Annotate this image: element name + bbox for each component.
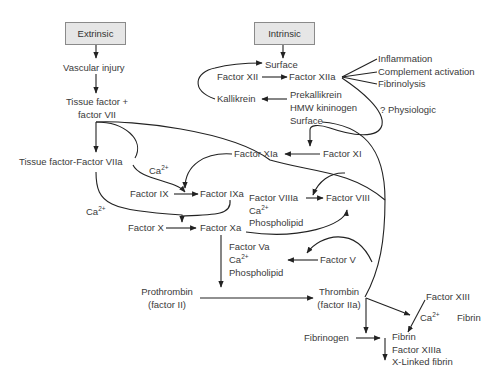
fibrinolysis-label: Fibrinolysis <box>378 78 426 90</box>
prekallikrein-label: Prekallikrein <box>290 89 342 101</box>
calcium-label-5: Ca2+ <box>420 312 440 324</box>
factor-viiia-label: Factor VIIIa <box>249 192 298 204</box>
intrinsic-pathway-box: Intrinsic <box>254 22 315 45</box>
phospholipid-label-2: Phospholipid <box>229 267 283 279</box>
fibrin-side-label: Fibrin <box>457 312 481 324</box>
inflammation-label: Inflammation <box>378 53 432 65</box>
calcium-label-1: Ca2+ <box>149 165 169 177</box>
factor-ixa-label: Factor IXa <box>200 188 244 200</box>
physiologic-label: ? Physiologic <box>380 104 436 116</box>
x-linked-fibrin-label: X-Linked fibrin <box>392 356 453 368</box>
factor-v-label: Factor V <box>320 254 356 266</box>
extrinsic-pathway-box: Extrinsic <box>65 22 126 45</box>
complement-activation-label: Complement activation <box>378 66 475 78</box>
factor-viii-label: Factor VIII <box>326 192 370 204</box>
prothrombin-label: Prothrombin <box>132 286 202 298</box>
factor-x-label: Factor X <box>128 222 164 234</box>
factor-ix-label: Factor IX <box>130 188 169 200</box>
surface-bottom-label: Surface <box>290 115 323 127</box>
tissue-factor-viia-label: Tissue factor-Factor VIIa <box>19 156 123 168</box>
factor-xiiia-label: Factor XIIIa <box>392 344 441 356</box>
surface-top-label: Surface <box>265 59 298 71</box>
factor-vii-label: factor VII <box>62 109 132 121</box>
calcium-label-2: Ca2+ <box>249 205 269 217</box>
intrinsic-label: Intrinsic <box>268 28 301 39</box>
factor-xiii-label: Factor XIII <box>426 291 470 303</box>
factor-ii-label: (factor II) <box>132 299 202 311</box>
factor-iia-label: (factor IIa) <box>304 299 374 311</box>
calcium-label-3: Ca2+ <box>86 206 106 218</box>
factor-va-label: Factor Va <box>229 241 269 253</box>
vascular-injury-label: Vascular injury <box>63 62 125 74</box>
thrombin-label: Thrombin <box>304 286 374 298</box>
tissue-factor-plus-label: Tissue factor + <box>62 96 132 108</box>
calcium-label-4: Ca2+ <box>229 254 249 266</box>
factor-xii-label: Factor XII <box>217 71 258 83</box>
phospholipid-label-1: Phospholipid <box>249 217 303 229</box>
factor-xi-label: Factor XI <box>323 148 362 160</box>
fibrinogen-label: Fibrinogen <box>304 332 349 344</box>
fibrin-label: Fibrin <box>392 331 416 343</box>
factor-xa-label: Factor Xa <box>200 222 241 234</box>
factor-xia-label: Factor XIa <box>234 148 278 160</box>
kallikrein-label: Kallikrein <box>217 93 256 105</box>
extrinsic-label: Extrinsic <box>78 28 114 39</box>
hmw-kininogen-label: HMW kininogen <box>290 102 357 114</box>
factor-xiia-label: Factor XIIa <box>289 71 335 83</box>
